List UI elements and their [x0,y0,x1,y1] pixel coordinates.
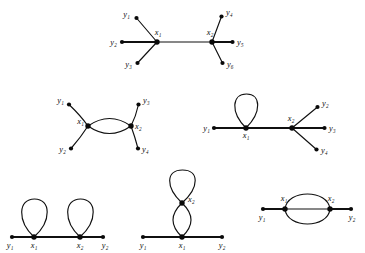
node-y2 [69,146,73,150]
node-y4 [136,146,140,150]
label-x2: x₂ [187,195,195,204]
label-x2: x₂ [327,194,335,203]
node-y1 [134,16,138,20]
edge-x1-y3 [138,42,158,63]
node-y1 [67,102,71,106]
node-x1 [31,234,36,239]
edge-loop-at-x2 [68,199,94,237]
node-x2 [209,39,214,44]
edge-double-upper [88,119,131,127]
diagram-top-tree: x₁ x₂ y₁ y₂ y₃ y₄ y₅ y₆ [109,8,243,69]
diagram-bottom-right-triple-edge: x₁ x₂ y₁ y₂ [258,194,356,224]
node-y1 [261,207,265,211]
node-y1 [141,235,145,239]
diagram-mid-right-loop: x₁ x₂ y₁ y₂ y₃ y₄ [202,94,335,155]
label-x1: x₁ [154,28,162,37]
node-y6 [220,61,224,65]
node-x2 [179,200,184,205]
edge-x2-y6 [212,42,223,63]
node-x1 [179,234,184,239]
label-y3: y₃ [328,124,336,133]
node-y2 [315,105,319,109]
label-y1: y₁ [6,241,14,250]
edge-loop-at-x1 [22,199,48,237]
edge-x1-x2-lower [285,209,330,224]
node-y1 [10,235,14,239]
label-y4: y₄ [225,8,233,17]
node-y3 [135,61,139,65]
node-x1 [282,206,287,211]
node-y4 [219,14,223,18]
label-x1: x₁ [76,117,84,126]
label-x1: x₁ [30,241,38,250]
edge-x1-x2-upper [285,194,330,209]
edge-x1-y2 [71,126,88,149]
node-y2 [120,40,124,44]
label-x2: x₂ [206,28,214,37]
edge-x2-y2 [292,107,318,128]
label-y4: y₄ [320,146,328,155]
node-x2 [289,125,294,130]
label-x2: x₂ [134,122,142,131]
graph-canvas: x₁ x₂ y₁ y₂ y₃ y₄ y₅ y₆ x₁ x₂ y₁ y₂ y₃ y… [0,0,365,253]
diagram-mid-left-double-edge: x₁ x₂ y₁ y₂ y₃ y₄ [56,96,149,154]
diagram-bottom-middle-stacked: x₁ x₂ y₁ y₂ [139,170,226,250]
node-y3 [136,102,140,106]
label-y2: y₂ [58,145,66,154]
label-y2: y₂ [101,241,109,250]
node-y2 [220,235,224,239]
figure-root: x₁ x₂ y₁ y₂ y₃ y₄ y₅ y₆ x₁ x₂ y₁ y₂ y₃ y… [0,0,365,253]
node-y1 [212,126,216,130]
label-y4: y₄ [141,145,149,154]
label-y2: y₂ [321,99,329,108]
label-x1: x₁ [242,131,250,140]
node-x2 [77,234,82,239]
node-y2 [101,235,105,239]
node-y5 [230,40,234,44]
node-y3 [322,126,326,130]
label-x2: x₂ [287,114,295,123]
label-y1: y₁ [56,96,64,105]
node-x1 [85,123,90,128]
edge-x1-x2-right [182,203,191,237]
label-y3: y₃ [124,60,132,69]
label-y2: y₂ [218,241,226,250]
node-y4 [314,147,318,151]
label-y1: y₁ [202,124,210,133]
edge-x1-x2-left [173,203,182,237]
label-y5: y₅ [236,38,244,47]
label-x1: x₁ [178,241,186,250]
label-x2: x₂ [76,241,84,250]
label-x1: x₁ [280,194,288,203]
node-y2 [349,207,353,211]
node-x1 [154,39,159,44]
label-y1: y₁ [139,241,147,250]
node-x1 [243,125,248,130]
label-y2: y₂ [109,38,117,47]
label-y6: y₆ [226,60,234,69]
node-x2 [327,206,332,211]
node-x2 [128,123,133,128]
edge-double-lower [88,126,131,134]
edge-loop-at-x1 [235,94,258,128]
edge-x2-y4 [292,128,317,150]
diagram-bottom-left-two-loops: x₁ x₂ y₁ y₂ [6,199,109,250]
edge-x2-y4 [212,17,222,43]
label-y1: y₁ [122,10,130,19]
label-y2: y₂ [348,213,356,222]
label-y1: y₁ [258,213,266,222]
label-y3: y₃ [142,96,150,105]
